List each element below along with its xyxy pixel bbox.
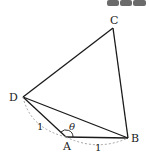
header-block [107,0,146,6]
vertex-label-A: A [62,140,72,153]
edge-AB [66,137,128,138]
edge-DC [23,28,113,97]
vertex-label-C: C [110,14,118,27]
edge-CB [113,28,128,138]
side-label-DA: 1 [37,121,43,132]
angle-label-theta: θ [69,121,75,132]
side-label-AB: 1 [95,142,101,153]
geometry-diagram: C D A B θ 1 1 [0,0,149,162]
vertex-label-D: D [9,91,18,104]
vertex-label-B: B [131,132,139,145]
edge-DA [23,97,66,137]
